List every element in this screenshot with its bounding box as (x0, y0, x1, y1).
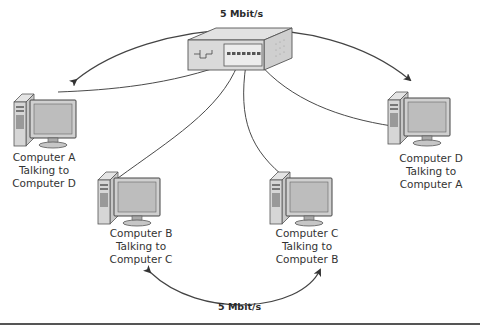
cable-c (244, 64, 288, 180)
computer-c-label: Computer C Talking to Computer B (262, 227, 352, 266)
link-arrow-b-c (150, 270, 320, 305)
cable-d (258, 62, 392, 126)
label-line: Talking to (388, 165, 474, 178)
label-line: Talking to (4, 164, 84, 177)
computer-a-icon (14, 94, 76, 148)
link-speed-bottom: 5 Mbit/s (218, 301, 261, 312)
link-speed-top: 5 Mbit/s (220, 8, 263, 19)
label-line: Computer B (96, 227, 186, 240)
label-line: Computer D (388, 152, 474, 165)
computer-c-icon (270, 172, 332, 226)
cables (58, 62, 392, 180)
computer-b-label: Computer B Talking to Computer C (96, 227, 186, 266)
label-line: Computer D (4, 177, 84, 190)
network-switch-icon (188, 28, 292, 70)
label-line: Computer C (262, 227, 352, 240)
computer-b-icon (98, 172, 160, 226)
label-line: Computer B (262, 253, 352, 266)
bottom-divider (0, 323, 480, 325)
cable-b (118, 64, 238, 178)
computer-d-label: Computer D Talking to Computer A (388, 152, 474, 191)
computer-a-label: Computer A Talking to Computer D (4, 151, 84, 190)
computer-d-icon (388, 92, 450, 146)
label-line: Computer A (388, 178, 474, 191)
label-line: Computer A (4, 151, 84, 164)
label-line: Computer C (96, 253, 186, 266)
label-line: Talking to (262, 240, 352, 253)
label-line: Talking to (96, 240, 186, 253)
